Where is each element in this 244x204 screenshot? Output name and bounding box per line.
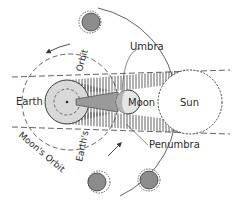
penumbra-label: Penumbra — [149, 139, 200, 150]
earth-label: Earth — [16, 96, 43, 107]
earth-center-dot — [66, 101, 69, 104]
orbit-arrow-bottom — [108, 144, 120, 156]
orbit-label: Orbit — [74, 48, 90, 73]
phase-moon-bottom-right — [138, 169, 160, 191]
lunar-eclipse-diagram: Umbra Earth Moon Sun Penumbra Orbit Moon… — [0, 0, 244, 204]
umbra-label: Umbra — [130, 41, 164, 52]
earths-label: Earth's — [74, 129, 90, 162]
phase-moon-bottom-left — [88, 171, 110, 193]
sun-label: Sun — [180, 97, 199, 108]
phase-moon-top — [79, 11, 101, 33]
moons-orbit-label: Moon's Orbit — [17, 130, 67, 175]
moon-label: Moon — [128, 97, 155, 108]
orbit-arrow-top — [48, 44, 70, 52]
